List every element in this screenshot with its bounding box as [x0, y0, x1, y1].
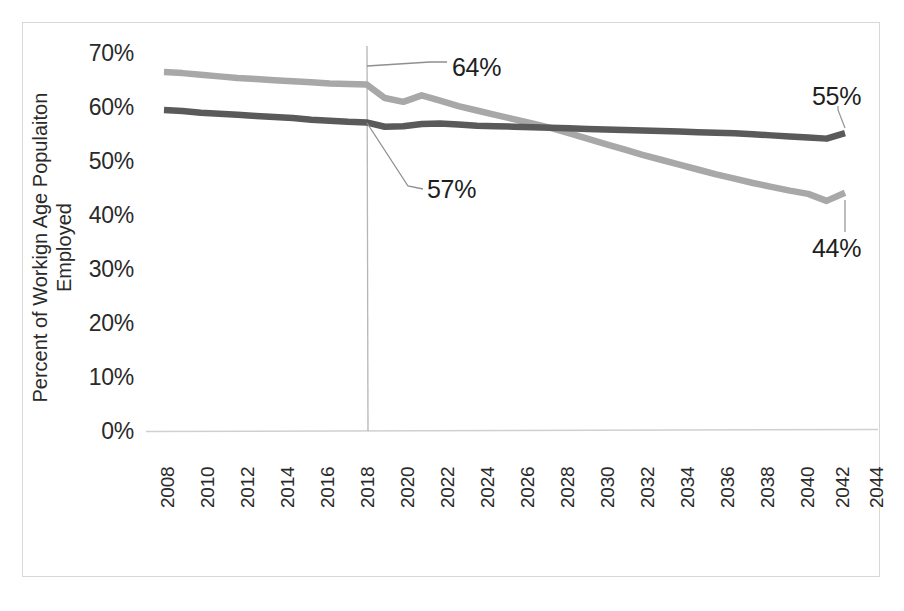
callout-leader-57 [367, 123, 423, 189]
data-label-44: 44% [812, 234, 861, 263]
chart-page: Percent of Workign Age Populaiton Employ… [0, 0, 904, 611]
chart-legend: GlobalDemographics Young Family Young Po… [0, 520, 904, 574]
x-axis-line [146, 430, 878, 432]
data-label-64: 64% [452, 53, 501, 82]
marker-line-2019 [367, 46, 368, 431]
callout-leader-64 [367, 62, 447, 66]
data-label-57: 57% [427, 175, 476, 204]
data-label-55: 55% [812, 82, 861, 111]
